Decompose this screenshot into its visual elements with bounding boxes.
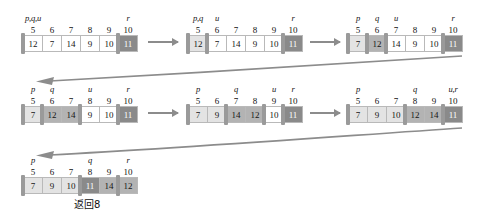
index-label: 9 bbox=[107, 25, 112, 35]
index-label: 9 bbox=[432, 96, 437, 106]
index-label: 9 bbox=[432, 25, 437, 35]
pointer-label: u bbox=[215, 13, 219, 23]
arrow-head-icon bbox=[172, 38, 179, 46]
array-cells: 7910121411 bbox=[348, 106, 463, 123]
pointer-label-row: pqur bbox=[188, 83, 303, 94]
pointer-bar-icon bbox=[205, 33, 209, 54]
figure-caption: 返回8 bbox=[74, 196, 100, 211]
arrow-head-icon bbox=[334, 38, 341, 46]
array-cell: 12 bbox=[118, 177, 138, 194]
array-cell: 11 bbox=[80, 177, 100, 194]
array-cell: 11 bbox=[443, 106, 463, 123]
array-cells: 1271491011 bbox=[188, 35, 303, 52]
array-cell: 11 bbox=[283, 106, 303, 123]
array-4: pqur56789107121491011 bbox=[23, 83, 138, 123]
pointer-bar-icon bbox=[21, 175, 25, 196]
array-cell: 11 bbox=[118, 106, 138, 123]
pointer-bar-icon bbox=[365, 33, 369, 54]
index-label: 8 bbox=[88, 96, 93, 106]
pointer-label: q bbox=[50, 84, 54, 94]
index-label: 10 bbox=[124, 167, 133, 177]
pointer-bar-icon bbox=[281, 104, 285, 125]
array-7: pqr56789107910111412 bbox=[23, 154, 138, 194]
pointer-label: q bbox=[234, 84, 238, 94]
index-label: 6 bbox=[215, 96, 220, 106]
index-label: 5 bbox=[31, 167, 36, 177]
pointer-bar-icon bbox=[441, 33, 445, 54]
index-label: 7 bbox=[234, 25, 239, 35]
pointer-bar-icon bbox=[186, 104, 190, 125]
index-label: 9 bbox=[107, 96, 112, 106]
index-label-row: 5678910 bbox=[188, 94, 303, 106]
figure-canvas: p,q,ur56789101271491011 p,qur56789101271… bbox=[0, 0, 483, 222]
arrow-head-icon bbox=[172, 109, 179, 117]
pointer-bar-icon bbox=[78, 175, 82, 196]
pointer-label-row: pqur bbox=[23, 83, 138, 94]
pointer-bar-icon bbox=[21, 104, 25, 125]
array-cell: 14 bbox=[226, 106, 246, 123]
index-label: 6 bbox=[375, 96, 380, 106]
pointer-label: r bbox=[126, 13, 129, 23]
pointer-bar-icon bbox=[40, 104, 44, 125]
index-label: 6 bbox=[50, 96, 55, 106]
array-cell: 9 bbox=[405, 35, 425, 52]
index-label: 7 bbox=[234, 96, 239, 106]
index-label: 5 bbox=[356, 96, 361, 106]
array-2: p,qur56789101271491011 bbox=[188, 12, 303, 52]
pointer-label-row: pqur bbox=[348, 12, 463, 23]
index-label: 10 bbox=[124, 96, 133, 106]
array-cell: 7 bbox=[188, 106, 208, 123]
pointer-label: p bbox=[196, 84, 200, 94]
pointer-bar-icon bbox=[116, 104, 120, 125]
pointer-bar-icon bbox=[186, 33, 190, 54]
index-label: 9 bbox=[272, 25, 277, 35]
index-label: 7 bbox=[69, 96, 74, 106]
pointer-label: u,r bbox=[448, 84, 457, 94]
arrow-1-to-2 bbox=[148, 37, 178, 46]
pointer-bar-icon bbox=[384, 33, 388, 54]
pointer-bar-icon bbox=[78, 104, 82, 125]
pointer-label-row: pqu,r bbox=[348, 83, 463, 94]
pointer-label: r bbox=[126, 84, 129, 94]
index-label: 5 bbox=[356, 25, 361, 35]
pointer-label: q bbox=[88, 155, 92, 165]
array-6: pqu,r56789107910121411 bbox=[348, 83, 463, 123]
array-cell: 9 bbox=[80, 35, 100, 52]
index-label: 5 bbox=[31, 96, 36, 106]
pointer-bar-icon bbox=[441, 104, 445, 125]
pointer-label: q bbox=[375, 13, 379, 23]
index-label: 10 bbox=[289, 25, 298, 35]
pointer-label: u bbox=[394, 13, 398, 23]
pointer-bar-icon bbox=[403, 104, 407, 125]
index-label: 10 bbox=[124, 25, 133, 35]
pointer-label: p bbox=[356, 13, 360, 23]
pointer-bar-icon bbox=[346, 104, 350, 125]
pointer-bar-icon bbox=[262, 104, 266, 125]
pointer-label: r bbox=[291, 13, 294, 23]
pointer-label: u bbox=[272, 84, 276, 94]
index-label: 10 bbox=[449, 96, 458, 106]
index-label: 7 bbox=[69, 167, 74, 177]
index-label: 8 bbox=[253, 96, 258, 106]
array-cell: 11 bbox=[118, 35, 138, 52]
array-cell: 7 bbox=[42, 35, 62, 52]
array-cell: 12 bbox=[23, 35, 43, 52]
array-cells: 1271491011 bbox=[23, 35, 138, 52]
array-3: pqur56789107121491011 bbox=[348, 12, 463, 52]
index-label: 6 bbox=[50, 167, 55, 177]
pointer-label: q bbox=[413, 84, 417, 94]
pointer-label: r bbox=[451, 13, 454, 23]
array-cell: 9 bbox=[42, 177, 62, 194]
pointer-bar-icon bbox=[116, 33, 120, 54]
index-label: 6 bbox=[215, 25, 220, 35]
pointer-label-row: p,qur bbox=[188, 12, 303, 23]
pointer-label: u bbox=[88, 84, 92, 94]
array-cell: 14 bbox=[386, 35, 406, 52]
index-label: 7 bbox=[394, 25, 399, 35]
array-5: pqur56789107914121011 bbox=[188, 83, 303, 123]
pointer-label-row: pqr bbox=[23, 154, 138, 165]
index-label: 7 bbox=[69, 25, 74, 35]
array-cell: 14 bbox=[61, 35, 81, 52]
array-cells: 7914121011 bbox=[188, 106, 303, 123]
arrow-head-icon bbox=[334, 109, 341, 117]
